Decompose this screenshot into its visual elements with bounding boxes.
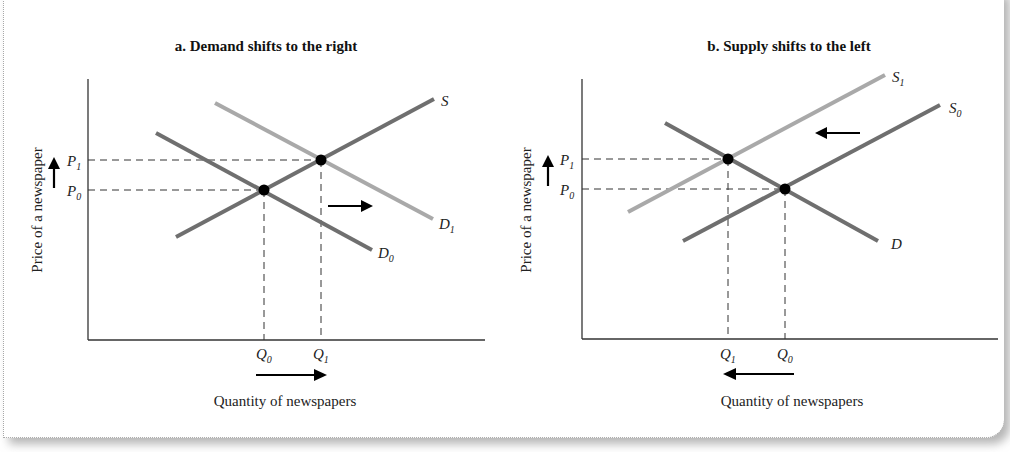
panel-a-quantity-right-arrow-icon bbox=[256, 369, 327, 381]
panel-b-s0-label: S0 bbox=[949, 100, 962, 119]
panel-a-p1-label: P1 bbox=[66, 153, 81, 172]
panel-a-s-label: S bbox=[441, 93, 449, 109]
panel-b: b. Supply shifts to the left Price of a … bbox=[518, 38, 998, 409]
panel-b-q0-label: Q0 bbox=[777, 346, 793, 365]
panel-b-d-label: D bbox=[890, 236, 902, 252]
panel-a-q0-label: Q0 bbox=[256, 346, 272, 365]
panel-b-equilibrium-1 bbox=[723, 154, 734, 165]
panel-a-q1-label: Q1 bbox=[313, 346, 329, 365]
panel-b-d-curve bbox=[665, 123, 878, 241]
panel-b-price-up-arrow-icon bbox=[542, 155, 554, 186]
panel-b-q1-label: Q1 bbox=[720, 346, 736, 365]
panel-b-p1-label: P1 bbox=[559, 152, 574, 171]
panel-a-equilibrium-0 bbox=[259, 185, 270, 196]
panel-b-quantity-left-arrow-icon bbox=[723, 368, 794, 380]
panel-b-y-label: Price of a newspaper bbox=[518, 147, 534, 272]
panel-a: a. Demand shifts to the right Price of a… bbox=[29, 38, 485, 409]
panel-a-price-up-arrow-icon bbox=[48, 157, 60, 188]
panel-a-p0-label: P0 bbox=[66, 183, 81, 202]
panel-a-title: a. Demand shifts to the right bbox=[175, 38, 358, 54]
panel-b-supply-shift-arrow-icon bbox=[815, 127, 860, 139]
panel-b-p0-label: P0 bbox=[559, 182, 574, 201]
panel-a-d1-label: D1 bbox=[438, 216, 455, 235]
panel-a-x-label: Quantity of newspapers bbox=[214, 393, 357, 409]
panel-a-d0-label: D0 bbox=[377, 245, 394, 264]
figure-svg: a. Demand shifts to the right Price of a… bbox=[0, 0, 1010, 452]
panel-b-equilibrium-0 bbox=[780, 184, 791, 195]
panel-b-x-label: Quantity of newspapers bbox=[721, 393, 864, 409]
panel-a-demand-shift-arrow-icon bbox=[328, 200, 373, 212]
panel-a-guides bbox=[88, 160, 321, 340]
panel-a-y-label: Price of a newspaper bbox=[29, 147, 45, 272]
panel-a-equilibrium-1 bbox=[316, 155, 327, 166]
panel-b-guides bbox=[582, 159, 785, 339]
panel-b-s1-label: S1 bbox=[892, 69, 905, 88]
panel-b-title: b. Supply shifts to the left bbox=[707, 38, 870, 54]
panel-b-s0-curve bbox=[683, 105, 940, 241]
panel-b-s1-curve bbox=[628, 75, 885, 212]
panel-a-s-curve bbox=[176, 99, 434, 237]
